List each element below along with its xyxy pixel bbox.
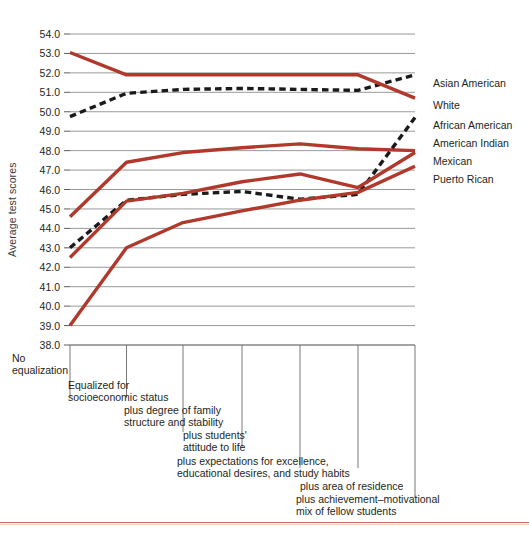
x-axis-label-line: Equalized for <box>68 379 168 391</box>
x-axis-label-line: mix of fellow students <box>296 505 440 517</box>
footer-rule <box>0 522 529 523</box>
legend-entry-mexican: Mexican <box>433 156 472 167</box>
x-axis-label-2: Equalized forsocioeconomic status <box>68 379 168 404</box>
y-axis-tick-label: 42.0 <box>14 262 60 273</box>
x-axis-label-line: No <box>12 352 68 364</box>
x-axis-label-line: educational desires, and study habits <box>177 467 350 479</box>
y-axis-tick-label: 51.0 <box>14 87 60 98</box>
legend-entry-african-american: African American <box>433 120 512 131</box>
x-axis-label-line: equalization <box>12 364 68 376</box>
y-axis-tick-label: 54.0 <box>14 29 60 40</box>
y-axis-tick-label: 38.0 <box>14 340 60 351</box>
x-axis-label-line: socioeconomic status <box>68 391 168 403</box>
y-axis-tick-label: 49.0 <box>14 126 60 137</box>
x-axis-label-4: plus students'attitude to life <box>183 429 247 454</box>
x-axis-label-7: plus achievement–motivationalmix of fell… <box>296 493 440 518</box>
y-axis-tick-label: 48.0 <box>14 146 60 157</box>
x-axis-label-line: plus achievement–motivational <box>296 493 440 505</box>
x-axis-label-line: plus expectations for excellence, <box>177 455 350 467</box>
y-axis-tick-label: 50.0 <box>14 107 60 118</box>
series-line-asian-american <box>70 75 415 117</box>
y-axis-ticks: 54.053.052.051.050.049.048.047.046.045.0… <box>14 0 60 537</box>
series-line-puerto-rican <box>70 166 415 325</box>
y-axis-tick-label: 47.0 <box>14 165 60 176</box>
y-axis-tick-label: 41.0 <box>14 282 60 293</box>
y-axis-tick-label: 40.0 <box>14 301 60 312</box>
legend-entry-american-indian: American Indian <box>433 138 509 149</box>
x-axis-label-line: plus area of residence <box>300 480 403 492</box>
y-axis-tick-label: 53.0 <box>14 48 60 59</box>
legend-entry-asian-american: Asian American <box>433 78 506 89</box>
x-axis-label-6: plus area of residence <box>300 480 403 492</box>
x-axis-label-1: Noequalization <box>12 352 68 377</box>
y-axis-tick-label: 45.0 <box>14 204 60 215</box>
y-axis-tick-label: 43.0 <box>14 243 60 254</box>
y-axis-tick-label: 39.0 <box>14 321 60 332</box>
y-axis-tick-label: 46.0 <box>14 185 60 196</box>
line-chart: Average test scores 54.053.052.051.050.0… <box>0 0 529 537</box>
series-line-white <box>70 52 415 98</box>
y-axis-tick-label: 44.0 <box>14 223 60 234</box>
x-axis-label-line: plus degree of family <box>124 404 223 416</box>
x-axis-label-line: structure and stability <box>124 416 223 428</box>
legend-entry-puerto-rican: Puerto Rican <box>433 174 494 185</box>
x-axis-label-5: plus expectations for excellence,educati… <box>177 455 350 480</box>
x-axis-label-line: plus students' <box>183 429 247 441</box>
legend-entry-white: White <box>433 100 460 111</box>
y-axis-tick-label: 52.0 <box>14 68 60 79</box>
x-axis-label-line: attitude to life <box>183 441 247 453</box>
footer-rule-secondary <box>0 524 529 525</box>
x-axis-label-3: plus degree of familystructure and stabi… <box>124 404 223 429</box>
